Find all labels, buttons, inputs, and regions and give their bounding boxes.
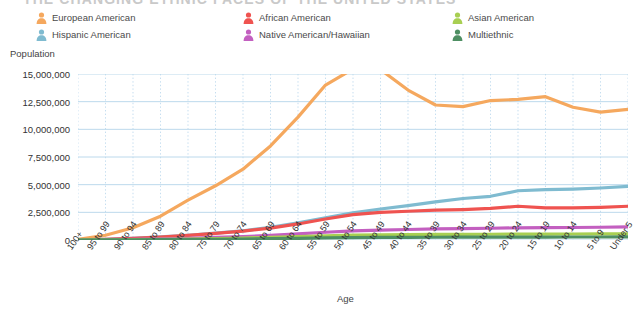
person-icon bbox=[243, 29, 254, 41]
person-icon bbox=[452, 29, 463, 41]
y-tick-label: 10,000,000 bbox=[6, 124, 70, 135]
legend-item-asian-american[interactable]: Asian American bbox=[452, 9, 534, 26]
legend-label: African American bbox=[259, 12, 331, 23]
legend-label: Multiethnic bbox=[468, 29, 513, 40]
x-axis-tick-labels: 100+95 to 9990 to 9485 to 8980 to 8475 t… bbox=[0, 244, 640, 304]
x-axis-title: Age bbox=[337, 293, 354, 304]
chart-legend: European American Hispanic American Afri… bbox=[0, 9, 640, 43]
page-title: THE CHANGING ETHNIC FACES OF THE UNITED … bbox=[23, 0, 457, 7]
person-icon bbox=[243, 12, 254, 24]
population-by-age-chart: THE CHANGING ETHNIC FACES OF THE UNITED … bbox=[0, 0, 640, 313]
line-chart-svg bbox=[78, 74, 628, 240]
y-tick-label: 7,500,000 bbox=[6, 152, 70, 163]
y-tick-label: 12,500,000 bbox=[6, 96, 70, 107]
legend-item-multiethnic[interactable]: Multiethnic bbox=[452, 26, 534, 43]
legend-column-3: Asian American Multiethnic bbox=[452, 9, 534, 43]
legend-item-african-american[interactable]: African American bbox=[243, 9, 370, 26]
y-tick-label: 5,000,000 bbox=[6, 179, 70, 190]
person-icon bbox=[452, 12, 463, 24]
legend-column-2: African American Native American/Hawaiia… bbox=[243, 9, 370, 43]
legend-label: Asian American bbox=[468, 12, 534, 23]
legend-label: Native American/Hawaiian bbox=[259, 29, 370, 40]
y-tick-label: 15,000,000 bbox=[6, 69, 70, 80]
plot-area bbox=[78, 74, 628, 240]
legend-item-native-american-hawaiian[interactable]: Native American/Hawaiian bbox=[243, 26, 370, 43]
chart-title-clipped: THE CHANGING ETHNIC FACES OF THE UNITED … bbox=[0, 0, 640, 8]
y-tick-label: 2,500,000 bbox=[6, 207, 70, 218]
